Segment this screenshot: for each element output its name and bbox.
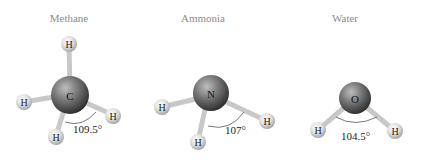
hydrogen-atom: H bbox=[310, 122, 326, 138]
water-bond-angle: 104.5° bbox=[341, 130, 370, 142]
svg-text:H: H bbox=[194, 137, 201, 148]
hydrogen-atom: H bbox=[105, 108, 121, 124]
hydrogen-atom: H bbox=[48, 129, 64, 145]
ammonia-title: Ammonia bbox=[181, 12, 225, 24]
hydrogen-atom: H bbox=[16, 94, 32, 110]
hydrogen-atom: H bbox=[259, 113, 275, 129]
svg-text:H: H bbox=[158, 102, 165, 113]
hydrogen-atom: H bbox=[61, 36, 77, 52]
oxygen-label: O bbox=[351, 93, 359, 105]
water-title: Water bbox=[332, 12, 358, 24]
svg-text:H: H bbox=[65, 39, 72, 50]
methane-bond-angle: 109.5° bbox=[73, 123, 102, 135]
methane-molecule: Methane C H H H H 109.5° bbox=[16, 12, 121, 145]
ammonia-bond-angle: 107° bbox=[225, 124, 246, 136]
angle-arc bbox=[336, 117, 377, 123]
svg-text:H: H bbox=[314, 125, 321, 136]
svg-text:H: H bbox=[109, 111, 116, 122]
svg-text:H: H bbox=[391, 126, 398, 137]
svg-text:H: H bbox=[20, 97, 27, 108]
svg-text:H: H bbox=[263, 116, 270, 127]
nitrogen-label: N bbox=[207, 88, 215, 100]
molecular-geometry-figure: Methane C H H H H 109.5° bbox=[0, 0, 421, 167]
carbon-label: C bbox=[66, 90, 73, 102]
hydrogen-atom: H bbox=[154, 99, 170, 115]
hydrogen-atom: H bbox=[190, 134, 206, 150]
svg-text:H: H bbox=[52, 132, 59, 143]
hydrogen-atom: H bbox=[387, 123, 403, 139]
ammonia-molecule: Ammonia N H H H 107° bbox=[154, 12, 275, 150]
water-molecule: Water O H H 104.5° bbox=[310, 12, 403, 142]
methane-title: Methane bbox=[50, 12, 89, 24]
